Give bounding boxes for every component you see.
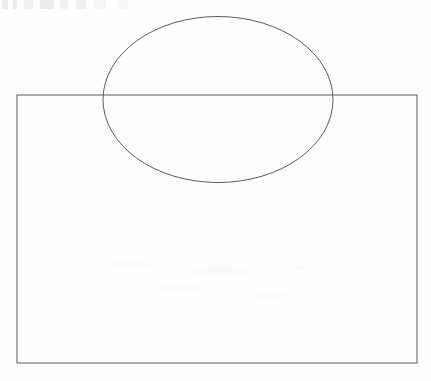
figure-canvas bbox=[0, 0, 431, 381]
geometry-figure bbox=[0, 0, 431, 381]
rectangle-shape bbox=[17, 95, 417, 363]
ellipse-shape bbox=[103, 17, 333, 183]
